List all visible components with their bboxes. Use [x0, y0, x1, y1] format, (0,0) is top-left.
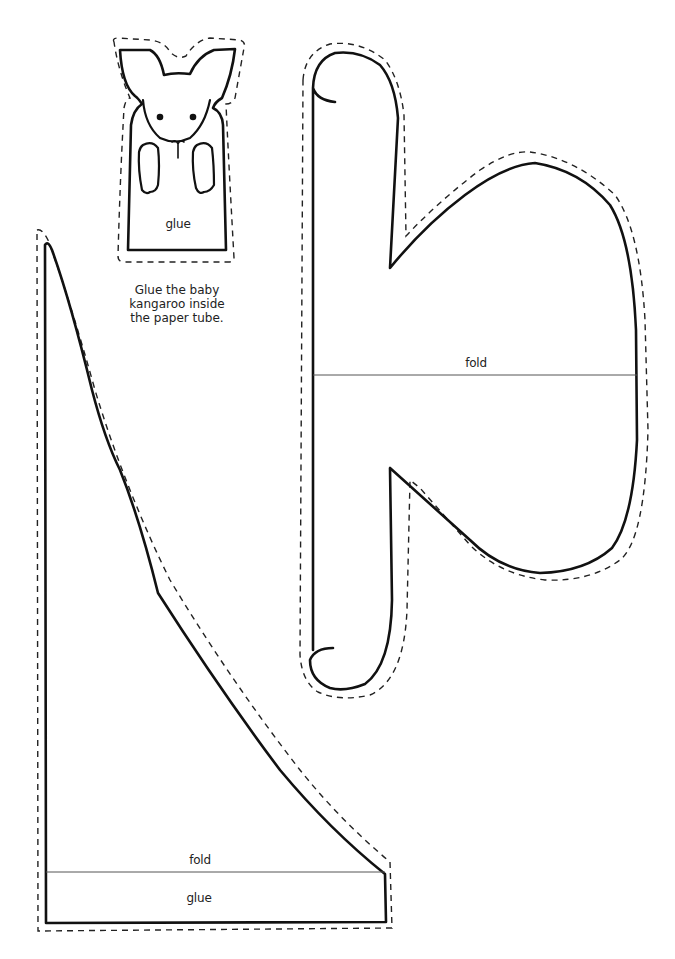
tail-piece: [37, 230, 392, 931]
tail-outline: [45, 243, 386, 923]
craft-template-canvas: [0, 0, 675, 959]
pouch-piece: [300, 43, 648, 698]
instruction-line-3: the paper tube.: [117, 311, 237, 325]
instruction-line-1: Glue the baby: [117, 283, 237, 297]
instruction-line-2: kangaroo inside: [117, 297, 237, 311]
baby-kangaroo-face: [143, 100, 210, 142]
tail-glue-label: glue: [186, 891, 211, 905]
pouch-fold-label: fold: [465, 356, 487, 370]
nose-icon: [172, 141, 184, 158]
paw-right: [193, 143, 214, 193]
pouch-cut-guide: [300, 43, 648, 698]
pouch-outline: [310, 53, 637, 690]
eye-right-icon: [190, 114, 197, 121]
instruction-text: Glue the baby kangaroo inside the paper …: [117, 283, 237, 325]
paw-left: [139, 143, 159, 193]
tail-cut-guide: [37, 230, 392, 931]
tail-fold-label: fold: [189, 853, 211, 867]
eye-left-icon: [157, 114, 164, 121]
baby-kangaroo-glue-label: glue: [165, 217, 190, 231]
